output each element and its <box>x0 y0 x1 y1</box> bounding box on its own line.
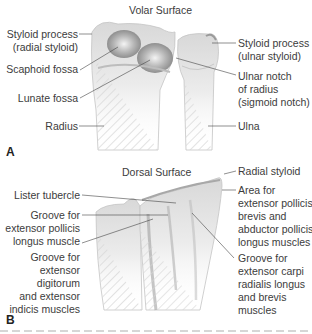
label-line: longus muscle <box>5 235 80 248</box>
label-line: digitorum <box>9 277 80 290</box>
label-line: Groove for <box>238 252 305 265</box>
label-line: Styloid process <box>7 28 78 41</box>
label-line: muscles <box>238 304 305 317</box>
radius-volar-illustration <box>92 22 176 150</box>
label-area-epb-apl: Area for extensor pollicis brevis and ab… <box>238 184 312 249</box>
ulna-volar-illustration <box>178 34 219 150</box>
label-line: indicis muscles <box>9 303 80 316</box>
label-line: extensor <box>9 264 80 277</box>
label-line: extensor pollicis <box>238 197 312 210</box>
panel-a-title: Volar Surface <box>129 4 192 16</box>
label-line: extensor pollicis <box>5 222 80 235</box>
label-radial-styloid-volar: Styloid process (radial styloid) <box>7 28 78 54</box>
label-groove-epl: Groove for extensor pollicis longus musc… <box>5 209 80 248</box>
label-line: and brevis <box>238 291 305 304</box>
label-line: Groove for <box>9 251 80 264</box>
label-line: of radius <box>238 83 310 96</box>
label-line: Styloid process <box>238 37 309 50</box>
label-line: Ulnar notch <box>238 70 310 83</box>
label-lister-tubercle: Lister tubercle <box>14 189 80 202</box>
panel-a-letter: A <box>6 145 15 159</box>
panel-b-title: Dorsal Surface <box>122 166 191 178</box>
label-line: (sigmoid notch) <box>238 96 310 109</box>
label-line: extensor carpi <box>238 265 305 278</box>
label-line: longus muscles <box>238 236 312 249</box>
label-ulnar-styloid: Styloid process (ulnar styloid) <box>238 37 309 63</box>
panel-b-letter: B <box>6 313 15 327</box>
label-groove-edc: Groove for extensor digitorum and extens… <box>9 251 80 316</box>
label-ulna: Ulna <box>238 120 260 133</box>
label-line: (radial styloid) <box>7 41 78 54</box>
label-line: brevis and <box>238 210 312 223</box>
truncated-caption <box>0 328 312 334</box>
label-lunate-fossa: Lunate fossa <box>18 92 78 105</box>
label-line: (ulnar styloid) <box>238 50 309 63</box>
label-radial-styloid-dorsal: Radial styloid <box>238 165 300 178</box>
label-line: radialis longus <box>238 278 305 291</box>
label-radius: Radius <box>45 120 78 133</box>
label-scaphoid-fossa: Scaphoid fossa <box>6 63 78 76</box>
label-line: Groove for <box>5 209 80 222</box>
label-line: and extensor <box>9 290 80 303</box>
label-line: abductor pollicis <box>238 223 312 236</box>
label-ulnar-notch: Ulnar notch of radius (sigmoid notch) <box>238 70 310 109</box>
label-line: Area for <box>238 184 312 197</box>
label-groove-ecr: Groove for extensor carpi radialis longu… <box>238 252 305 317</box>
